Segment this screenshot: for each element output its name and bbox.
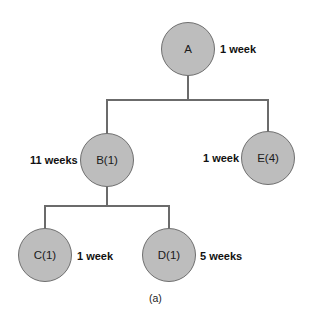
node-a: A xyxy=(161,22,215,76)
edge-a-horizontal xyxy=(106,99,269,101)
node-c: C(1) xyxy=(18,228,72,282)
node-b-duration: 11 weeks xyxy=(30,153,78,167)
node-a-label: A xyxy=(184,43,192,55)
node-d-label: D(1) xyxy=(158,249,180,261)
figure-caption: (a) xyxy=(149,292,162,304)
node-a-duration: 1 week xyxy=(220,42,256,56)
node-e-duration: 1 week xyxy=(203,151,239,165)
node-d-duration: 5 weeks xyxy=(200,249,242,263)
node-c-duration: 1 week xyxy=(77,249,113,263)
edge-b-to-c xyxy=(44,205,46,229)
node-c-label: C(1) xyxy=(34,249,56,261)
edge-b-to-d xyxy=(168,205,170,229)
tree-diagram: A 1 week B(1) 11 weeks E(4) 1 week C(1) … xyxy=(0,0,312,317)
edge-a-stem xyxy=(187,75,189,101)
edge-b-stem xyxy=(106,186,108,207)
node-b-label: B(1) xyxy=(96,154,118,166)
node-e-label: E(4) xyxy=(257,152,279,164)
node-d: D(1) xyxy=(142,228,196,282)
edge-a-to-e xyxy=(267,99,269,132)
node-e: E(4) xyxy=(241,131,295,185)
edge-a-to-b xyxy=(106,99,108,134)
edge-b-horizontal xyxy=(44,205,170,207)
node-b: B(1) xyxy=(80,133,134,187)
